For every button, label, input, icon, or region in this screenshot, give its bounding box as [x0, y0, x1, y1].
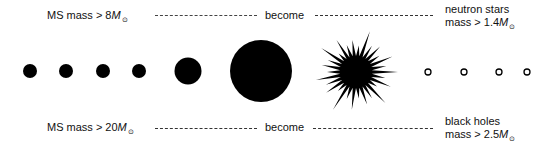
black-holes-title: black holes — [445, 115, 515, 128]
bottom-right-dash — [313, 128, 433, 129]
sun-icon: ⊙ — [509, 135, 515, 142]
remnant-hollow-circle — [524, 69, 530, 75]
small-star-dot — [96, 64, 110, 78]
solar-mass-symbol: M — [118, 121, 127, 133]
remnant-hollow-circle — [425, 69, 431, 75]
solar-mass-symbol: M — [499, 128, 508, 140]
small-star-dot — [132, 64, 146, 78]
small-star-dot — [59, 64, 73, 78]
remnant-hollow-circle — [496, 69, 502, 75]
bottom-left-label: MS mass > 20M⊙ — [47, 121, 134, 138]
bottom-left-text: MS mass > 20 — [47, 121, 118, 133]
supernova-starburst-icon — [316, 31, 398, 110]
medium-star-circle — [175, 58, 202, 85]
bottom-left-dash — [155, 128, 257, 129]
black-hole-mass-text: mass > 2.5 — [445, 128, 499, 140]
bottom-middle-label: become — [265, 121, 304, 134]
small-star-dot — [23, 64, 37, 78]
giant-star-circle — [230, 40, 292, 102]
sun-icon: ⊙ — [128, 128, 134, 135]
bottom-right-label: black holes mass > 2.5M⊙ — [445, 115, 515, 145]
remnant-hollow-circle — [461, 69, 467, 75]
